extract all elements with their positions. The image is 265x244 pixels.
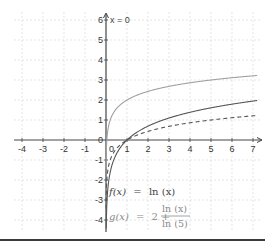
g-lhs: g(x) xyxy=(109,211,129,222)
x-tick-label: 2 xyxy=(145,144,150,154)
y-tick-label: 1 xyxy=(98,115,103,125)
asymptote-label: x = 0 xyxy=(110,15,130,25)
axes xyxy=(14,13,262,232)
x-tick-label: 5 xyxy=(208,144,213,154)
x-tick-label: -3 xyxy=(39,144,47,154)
f-equals: = xyxy=(133,186,141,197)
x-tick-label: 4 xyxy=(187,144,192,154)
y-tick-label: 6 xyxy=(98,15,103,25)
x-tick-label: -1 xyxy=(81,144,89,154)
grid xyxy=(14,12,262,232)
curve-g xyxy=(106,75,257,168)
f-rhs: ln (x) xyxy=(149,186,175,197)
x-tick-label: 7 xyxy=(250,144,255,154)
f-lhs: f(x) xyxy=(108,186,126,197)
y-tick-label: -3 xyxy=(95,195,103,205)
bottom-rule xyxy=(0,239,265,241)
y-tick-label: 4 xyxy=(98,55,103,65)
y-tick-label: -4 xyxy=(95,215,103,225)
y-tick-label: 5 xyxy=(98,35,103,45)
x-tick-label: 1 xyxy=(124,144,129,154)
x-tick-label: -2 xyxy=(60,144,68,154)
svg-text:g(x) = 2 +: g(x) = 2 + xyxy=(109,211,170,222)
function-plot: -4-3-2-101234567-4-3-2-10123456 x = 0 f(… xyxy=(0,0,265,244)
g-denominator: ln (5) xyxy=(162,218,188,229)
g-equals: = xyxy=(136,211,144,222)
y-tick-label: 2 xyxy=(98,95,103,105)
f-label: f(x) = ln (x) xyxy=(108,186,175,197)
y-tick-label: 3 xyxy=(98,75,103,85)
svg-text:f(x) = ln (x): f(x) = ln (x) xyxy=(108,186,175,197)
x-tick-label: 3 xyxy=(166,144,171,154)
y-tick-label: -2 xyxy=(95,175,103,185)
x-tick-label: 6 xyxy=(229,144,234,154)
x-tick-label: -4 xyxy=(18,144,26,154)
y-tick-label: 0 xyxy=(98,135,103,145)
y-tick-label: -1 xyxy=(95,155,103,165)
g-label: g(x) = 2 + ln (x) ln (5) xyxy=(109,203,190,229)
g-numerator: ln (x) xyxy=(162,203,187,214)
